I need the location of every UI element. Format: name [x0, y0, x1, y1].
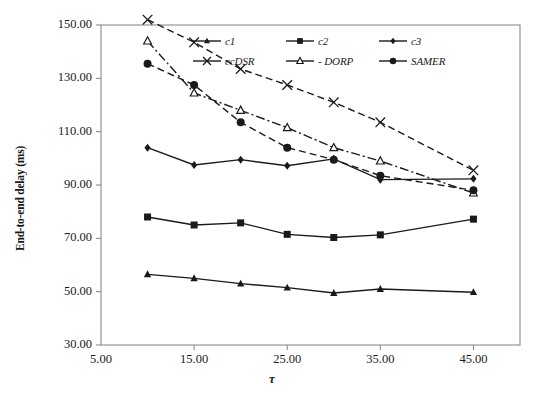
legend-label: c1 — [225, 35, 235, 47]
legend-label: ccDSR — [225, 55, 254, 67]
legend-swatch-cross-icon — [192, 54, 222, 68]
marker-square — [144, 214, 151, 221]
y-axis-tick-label: 50.00 — [64, 284, 92, 299]
legend-row: c1c2c3 — [192, 31, 472, 51]
marker-square — [377, 231, 384, 238]
legend-swatch-diamond-icon — [378, 34, 408, 48]
legend-label: c3 — [411, 35, 421, 47]
marker-circle — [283, 144, 291, 152]
marker-circle — [144, 60, 152, 68]
legend-item-c2: c2 — [285, 31, 378, 51]
x-axis-tick-label: 45.00 — [438, 352, 508, 367]
marker-square — [191, 222, 198, 229]
y-axis-title: End-to-end delay (ms) — [8, 108, 32, 288]
legend-item-ccdsr: ccDSR — [192, 51, 285, 71]
legend-item-c3: c3 — [378, 31, 471, 51]
x-axis-title: τ — [0, 371, 544, 387]
marker-square — [330, 234, 337, 241]
legend-label: - DORP — [318, 55, 353, 67]
marker-square — [297, 38, 303, 44]
y-axis-tick-label: 70.00 — [64, 230, 92, 245]
legend-label: SAMER — [411, 55, 445, 67]
marker-square — [284, 231, 291, 238]
y-axis-tick-label: 150.00 — [58, 17, 92, 32]
marker-diamond — [390, 38, 395, 45]
legend-swatch-triangle-icon — [192, 34, 222, 48]
marker-open-triangle — [297, 58, 303, 64]
chart-legend: c1c2c3ccDSR- DORPSAMER — [192, 31, 472, 73]
y-axis-tick-label: 90.00 — [64, 177, 92, 192]
y-axis-tick-label: 110.00 — [58, 124, 92, 139]
marker-circle — [237, 118, 245, 126]
marker-circle — [390, 58, 397, 65]
marker-square — [237, 219, 244, 226]
x-axis-tick-label: 35.00 — [345, 352, 415, 367]
plot-area-frame — [101, 25, 520, 345]
x-axis-tick-label: 5.00 — [66, 352, 136, 367]
legend-swatch-square-icon — [285, 34, 315, 48]
marker-circle — [190, 81, 198, 89]
x-axis-tick-label: 15.00 — [159, 352, 229, 367]
y-axis-tick-label: 30.00 — [64, 337, 92, 352]
chart-figure: End-to-end delay (ms) τ 30.0050.0070.009… — [0, 0, 544, 409]
legend-item-samer: SAMER — [378, 51, 471, 71]
legend-item-c1: c1 — [192, 31, 285, 51]
legend-row: ccDSR- DORPSAMER — [192, 51, 472, 71]
marker-circle — [469, 186, 477, 194]
legend-swatch-open-triangle-icon — [285, 54, 315, 68]
marker-circle — [376, 172, 384, 180]
legend-item-dorp: - DORP — [285, 51, 378, 71]
x-axis-tick-label: 25.00 — [252, 352, 322, 367]
marker-circle — [330, 156, 338, 164]
legend-label: c2 — [318, 35, 328, 47]
legend-swatch-circle-icon — [378, 54, 408, 68]
y-axis-tick-label: 130.00 — [58, 70, 92, 85]
marker-square — [470, 216, 477, 223]
